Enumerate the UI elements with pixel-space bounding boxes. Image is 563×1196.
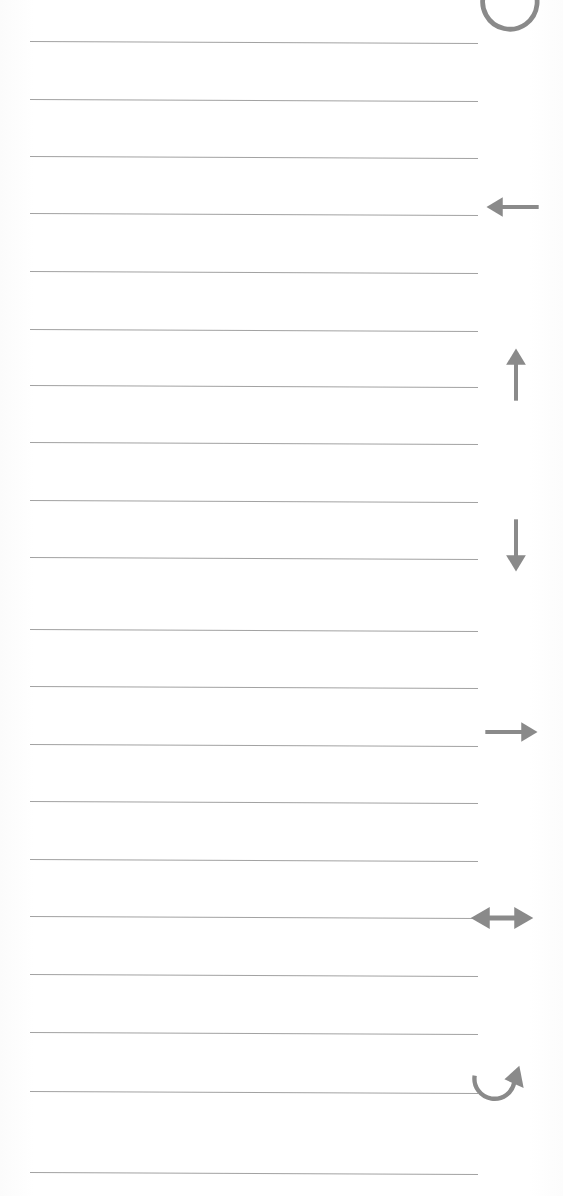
arrow-up-icon [487,345,545,403]
arrow-annotations-layer [0,0,563,1196]
arrow-left-right-icon [468,884,536,952]
arrow-right-icon [483,703,541,761]
arrow-left-icon [483,178,541,236]
notebook-page [0,0,563,1196]
curved-return-arrow-icon [466,1057,528,1119]
refresh-circular-arrow-icon [477,0,545,34]
arrow-down-icon [487,517,545,575]
